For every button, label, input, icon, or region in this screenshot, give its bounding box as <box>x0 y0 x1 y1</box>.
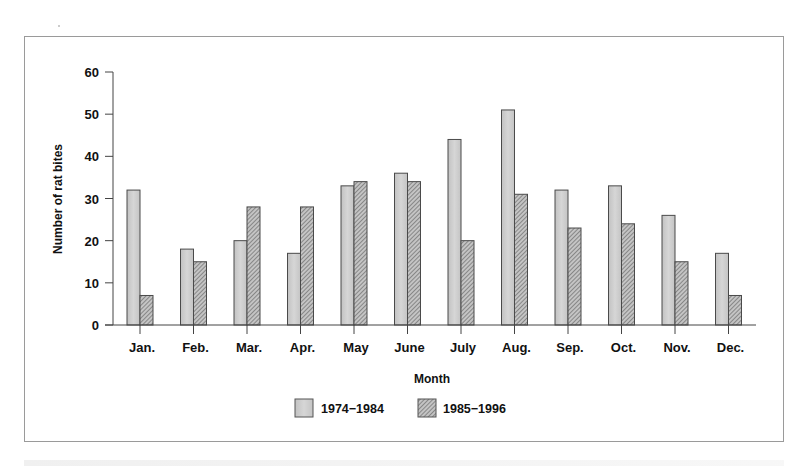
y-tick-label: 20 <box>85 234 99 249</box>
bar-1974-1984-july <box>448 139 461 325</box>
bar-1985-1996-apr <box>301 207 314 325</box>
x-tick-label: Jan. <box>129 340 155 355</box>
bar-1974-1984-june <box>395 173 408 325</box>
figure-caption-cutoff <box>24 454 784 468</box>
x-tick-label: Mar. <box>236 340 262 355</box>
bar-1974-1984-dec <box>716 253 729 325</box>
bar-1985-1996-may <box>354 182 367 325</box>
y-tick-label: 60 <box>85 65 99 80</box>
bar-1985-1996-aug <box>515 194 528 325</box>
x-tick-label: Aug. <box>502 340 531 355</box>
bar-1985-1996-feb <box>194 262 207 325</box>
legend-label-1985-1996: 1985−1996 <box>443 402 506 416</box>
x-tick-label: May <box>343 340 369 355</box>
y-tick-label: 0 <box>92 318 99 333</box>
bar-1985-1996-sep <box>568 228 581 325</box>
bar-1974-1984-oct <box>609 186 622 325</box>
y-tick-label: 30 <box>85 192 99 207</box>
x-tick-label: Apr. <box>290 340 315 355</box>
bar-1974-1984-mar <box>234 241 247 325</box>
bar-1974-1984-feb <box>181 249 194 325</box>
y-axis: 0102030405060 <box>85 65 113 333</box>
x-tick-label: June <box>394 340 424 355</box>
legend-swatch-1974-1984 <box>295 399 313 417</box>
bar-1974-1984-jan <box>127 190 140 325</box>
y-tick-label: 10 <box>85 276 99 291</box>
bar-1985-1996-oct <box>622 224 635 325</box>
bar-1985-1996-nov <box>675 262 688 325</box>
legend-swatch-1985-1996 <box>418 399 436 417</box>
bar-1985-1996-july <box>461 241 474 325</box>
bar-1974-1984-nov <box>662 215 675 325</box>
x-tick-label: Dec. <box>717 340 744 355</box>
x-tick-label: Nov. <box>663 340 690 355</box>
bar-1974-1984-sep <box>555 190 568 325</box>
bar-1974-1984-may <box>341 186 354 325</box>
bar-chart: 0102030405060 Jan.Feb.Mar.Apr.MayJuneJul… <box>0 0 809 468</box>
bar-1985-1996-june <box>408 182 421 325</box>
bar-1974-1984-apr <box>288 253 301 325</box>
bar-1985-1996-mar <box>247 207 260 325</box>
x-tick-label: Sep. <box>556 340 583 355</box>
y-axis-title: Number of rat bites <box>51 144 65 254</box>
x-axis-title: Month <box>414 372 450 386</box>
x-tick-label: Feb. <box>182 340 209 355</box>
y-tick-label: 50 <box>85 107 99 122</box>
bar-1985-1996-jan <box>140 295 153 325</box>
bar-1985-1996-dec <box>729 295 742 325</box>
x-tick-label: July <box>450 340 477 355</box>
x-tick-label: Oct. <box>611 340 636 355</box>
bars <box>127 110 742 325</box>
legend: 1974−1984 1985−1996 <box>295 399 506 417</box>
x-axis: Jan.Feb.Mar.Apr.MayJuneJulyAug.Sep.Oct.N… <box>105 325 756 355</box>
bar-1974-1984-aug <box>502 110 515 325</box>
legend-label-1974-1984: 1974−1984 <box>321 402 384 416</box>
y-tick-label: 40 <box>85 149 99 164</box>
